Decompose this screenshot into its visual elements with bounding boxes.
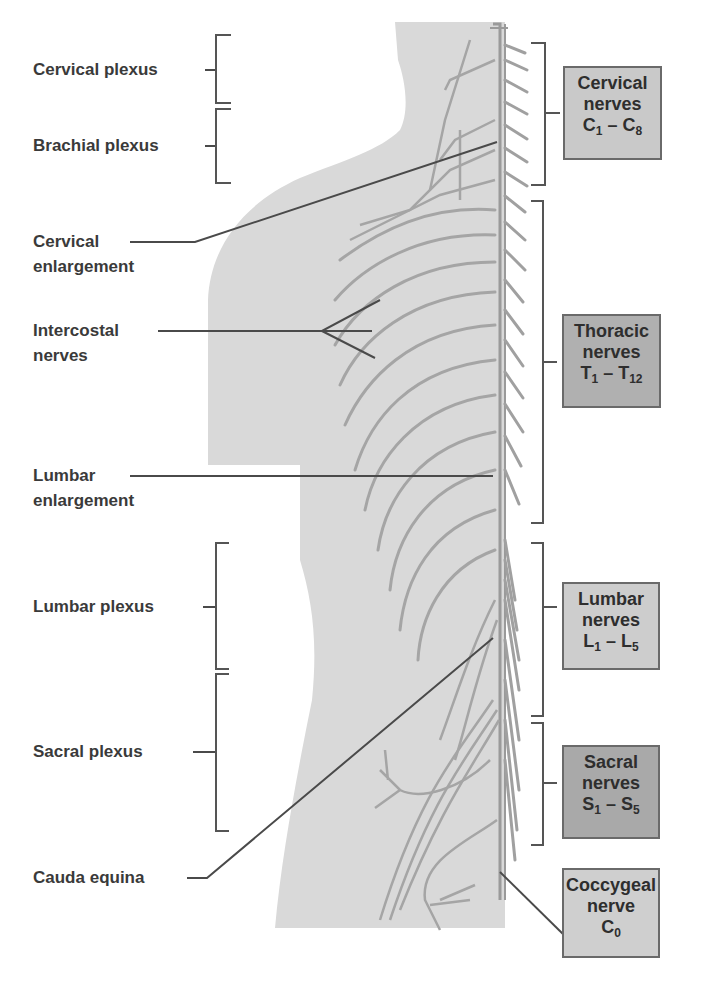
range-from-num: 1 bbox=[591, 372, 598, 386]
box-cervical-range: C1 – C8 bbox=[565, 115, 660, 138]
spinal-nerves-diagram: Cervical plexus Brachial plexus Cervical… bbox=[0, 0, 722, 986]
bracket-lumbar-nerves bbox=[531, 543, 557, 716]
box-cervical-title: Cervical bbox=[565, 73, 660, 94]
range-from-letter: T bbox=[580, 363, 591, 383]
label-lumbar-enlargement-line1: Lumbar bbox=[33, 465, 95, 487]
label-cauda-equina: Cauda equina bbox=[33, 867, 144, 889]
box-lumbar-nerves: Lumbar nerves L1 – L5 bbox=[562, 582, 660, 670]
bracket-cervical-plexus bbox=[216, 35, 231, 103]
bracket-lumbar-plexus bbox=[216, 543, 229, 669]
box-lumbar-subtitle: nerves bbox=[564, 610, 658, 631]
bracket-thoracic-nerves bbox=[531, 201, 557, 523]
range-to-num: 5 bbox=[632, 640, 639, 654]
label-cervical-enlargement-line2: enlargement bbox=[33, 256, 134, 278]
leader-coccygeal bbox=[500, 872, 565, 936]
right-brackets bbox=[531, 43, 560, 845]
label-lumbar-enlargement-line2: enlargement bbox=[33, 490, 134, 512]
box-cervical-nerves: Cervical nerves C1 – C8 bbox=[563, 66, 662, 160]
label-cervical-enlargement-line1: Cervical bbox=[33, 231, 99, 253]
range-to-letter: L bbox=[621, 631, 632, 651]
label-intercostal-nerves-line1: Intercostal bbox=[33, 320, 119, 342]
range-from-num: 1 bbox=[594, 803, 601, 817]
range-from-letter: S bbox=[582, 794, 594, 814]
nerve-roots bbox=[505, 45, 527, 860]
range-to-num: 12 bbox=[629, 372, 642, 386]
range-from-num: 1 bbox=[596, 124, 603, 138]
range-dash: – bbox=[598, 363, 618, 383]
box-sacral-nerves: Sacral nerves S1 – S5 bbox=[562, 745, 660, 839]
box-sacral-range: S1 – S5 bbox=[564, 794, 658, 817]
box-thoracic-title: Thoracic bbox=[564, 321, 659, 342]
range-from-letter: L bbox=[583, 631, 594, 651]
bracket-brachial-plexus bbox=[216, 109, 231, 183]
box-sacral-title: Sacral bbox=[564, 752, 658, 773]
range-from-letter: C bbox=[583, 115, 596, 135]
box-lumbar-range: L1 – L5 bbox=[564, 631, 658, 654]
box-cervical-subtitle: nerves bbox=[565, 94, 660, 115]
range-to-letter: C bbox=[623, 115, 636, 135]
box-thoracic-nerves: Thoracic nerves T1 – T12 bbox=[562, 314, 661, 408]
label-brachial-plexus: Brachial plexus bbox=[33, 135, 159, 157]
code-num: 0 bbox=[614, 926, 621, 940]
bracket-sacral-plexus bbox=[216, 674, 229, 831]
box-sacral-subtitle: nerves bbox=[564, 773, 658, 794]
range-from-num: 1 bbox=[594, 640, 601, 654]
label-cervical-plexus: Cervical plexus bbox=[33, 59, 158, 81]
box-coccygeal-nerve: Coccygeal nerve C0 bbox=[562, 868, 660, 958]
box-coccygeal-subtitle: nerve bbox=[564, 896, 658, 917]
bracket-sacral-nerves bbox=[531, 723, 557, 845]
range-to-letter: T bbox=[618, 363, 629, 383]
range-to-letter: S bbox=[621, 794, 633, 814]
box-coccygeal-title: Coccygeal bbox=[564, 875, 658, 896]
range-dash: – bbox=[601, 631, 621, 651]
label-sacral-plexus: Sacral plexus bbox=[33, 741, 143, 763]
label-intercostal-nerves-line2: nerves bbox=[33, 345, 88, 367]
bracket-cervical-nerves bbox=[531, 43, 560, 185]
box-coccygeal-code: C0 bbox=[564, 917, 658, 940]
code-letter: C bbox=[601, 917, 614, 937]
range-dash: – bbox=[602, 115, 622, 135]
label-lumbar-plexus: Lumbar plexus bbox=[33, 596, 154, 618]
box-lumbar-title: Lumbar bbox=[564, 589, 658, 610]
box-thoracic-range: T1 – T12 bbox=[564, 363, 659, 386]
range-to-num: 8 bbox=[636, 124, 643, 138]
box-thoracic-subtitle: nerves bbox=[564, 342, 659, 363]
range-dash: – bbox=[601, 794, 621, 814]
range-to-num: 5 bbox=[633, 803, 640, 817]
